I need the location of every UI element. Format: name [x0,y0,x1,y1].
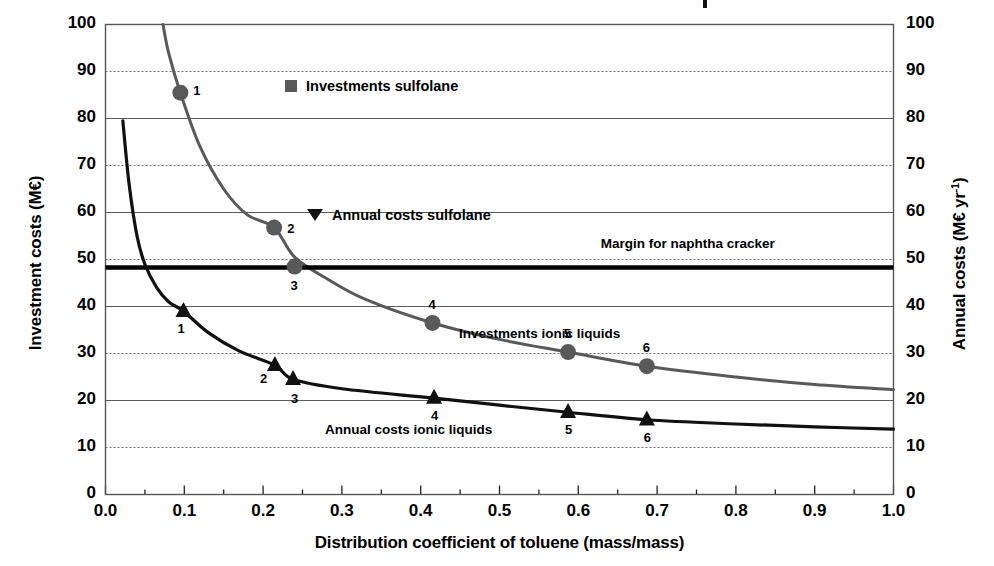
y-left-tick-80: 80 [36,107,96,127]
data-point [560,344,576,360]
series-curves [123,25,894,430]
x-axis-title: Distribution coefficient of toluene (mas… [105,533,894,553]
x-tick-0.5: 0.5 [470,501,530,521]
x-tick-1.0: 1.0 [864,501,924,521]
inline-label-1: Annual costs ionic liquids [325,422,492,437]
legend-entry-1: Annual costs sulfolane [307,207,491,223]
data-point [639,358,655,374]
y-right-tick-40: 40 [906,295,966,315]
data-point [266,220,282,236]
y-left-tick-10: 10 [36,436,96,456]
chart-figure: Investment costs (M€) Annual costs (M€ y… [0,0,994,566]
y-right-tick-20: 20 [906,389,966,409]
point-label: 4 [429,297,436,312]
x-tick-0.3: 0.3 [312,501,372,521]
point-label: 3 [291,391,298,406]
y-right-tick-50: 50 [906,248,966,268]
y-left-tick-60: 60 [36,201,96,221]
y-left-tick-90: 90 [36,60,96,80]
point-label: 6 [643,340,650,355]
x-tick-0.1: 0.1 [154,501,214,521]
gridlines [106,25,894,448]
point-label: 5 [564,326,571,341]
y-left-tick-50: 50 [36,248,96,268]
y-right-tick-10: 10 [906,436,966,456]
y-right-tick-0: 0 [906,483,966,503]
data-point [287,259,303,275]
y-left-tick-0: 0 [36,483,96,503]
point-label: 1 [193,83,200,98]
legend-entry-0: Investments sulfolane [285,78,458,94]
inline-label-0: Investments ionic liquids [459,326,620,341]
y-right-tick-60: 60 [906,201,966,221]
y-right-tick-30: 30 [906,342,966,362]
x-tick-0.8: 0.8 [706,501,766,521]
x-tick-0.9: 0.9 [785,501,845,521]
legend-triangle-down-icon [307,209,323,221]
series-markers [172,85,654,426]
x-tick-0.2: 0.2 [233,501,293,521]
legend-label: Annual costs sulfolane [332,207,491,223]
data-point [172,85,188,101]
y-left-tick-70: 70 [36,154,96,174]
inline-label-2: Margin for naphtha cracker [601,236,775,251]
plot-canvas [0,0,994,566]
y-left-tick-20: 20 [36,389,96,409]
x-tick-0.4: 0.4 [391,501,451,521]
axis-ticks [106,486,894,495]
point-label: 2 [287,221,294,236]
curve-1 [123,121,894,429]
y-right-tick-90: 90 [906,60,966,80]
data-point [176,302,192,317]
x-tick-0.6: 0.6 [548,501,608,521]
y-left-tick-30: 30 [36,342,96,362]
y-right-tick-80: 80 [906,107,966,127]
y-left-tick-40: 40 [36,295,96,315]
x-tick-0.0: 0.0 [76,501,136,521]
y-right-tick-100: 100 [906,13,966,33]
point-label: 1 [178,321,185,336]
point-label: 3 [291,278,298,293]
data-point [425,315,441,331]
legend-square-icon [285,80,297,92]
y-right-tick-70: 70 [906,154,966,174]
point-label: 2 [260,371,267,386]
point-label: 4 [431,408,438,423]
x-tick-0.7: 0.7 [627,501,687,521]
point-label: 5 [565,422,572,437]
point-label: 6 [644,430,651,445]
y-left-tick-100: 100 [36,13,96,33]
legend-label: Investments sulfolane [306,78,458,94]
